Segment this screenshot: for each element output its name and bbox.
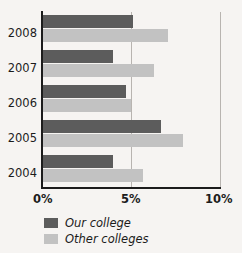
y-axis-labels: 2008 2007 2006 2005 2004 (0, 12, 37, 188)
bar-group-2005 (42, 120, 220, 147)
x-tick-label-10: 10% (205, 192, 233, 206)
bar-other-colleges-2004 (42, 169, 143, 182)
bar-our-college-2008 (42, 15, 133, 28)
chart-legend: Our college Other colleges (44, 216, 149, 248)
legend-label-our-college: Our college (65, 216, 131, 230)
bar-group-2006 (42, 85, 220, 112)
bar-our-college-2004 (42, 155, 113, 168)
legend-label-other-colleges: Other colleges (65, 232, 149, 246)
y-tick-label-2008: 2008 (0, 27, 37, 39)
legend-item-other-colleges: Other colleges (44, 232, 149, 246)
y-tick-label-2004: 2004 (0, 167, 37, 179)
bar-our-college-2006 (42, 85, 126, 98)
y-tick-label-2005: 2005 (0, 132, 37, 144)
x-axis-line (41, 187, 221, 189)
bar-our-college-2005 (42, 120, 161, 133)
legend-item-our-college: Our college (44, 216, 149, 230)
y-axis-line (41, 11, 43, 189)
x-axis-labels: 0% 5% 10% (0, 192, 242, 208)
bar-other-colleges-2005 (42, 134, 183, 147)
bar-other-colleges-2007 (42, 64, 154, 77)
legend-swatch-icon-our-college (44, 218, 58, 228)
x-tick-label-0: 0% (33, 192, 53, 206)
bar-chart: 2008 2007 2006 2005 2004 (0, 0, 242, 253)
legend-swatch-icon-other-colleges (44, 234, 58, 244)
y-tick-label-2006: 2006 (0, 97, 37, 109)
bar-other-colleges-2006 (42, 99, 131, 112)
gridline-10-percent (220, 12, 221, 188)
bar-group-2007 (42, 50, 220, 77)
plot-area (42, 12, 220, 188)
bar-other-colleges-2008 (42, 29, 168, 42)
bar-our-college-2007 (42, 50, 113, 63)
bar-group-2008 (42, 15, 220, 42)
x-tick-label-5: 5% (121, 192, 141, 206)
y-tick-label-2007: 2007 (0, 62, 37, 74)
bar-group-2004 (42, 155, 220, 182)
